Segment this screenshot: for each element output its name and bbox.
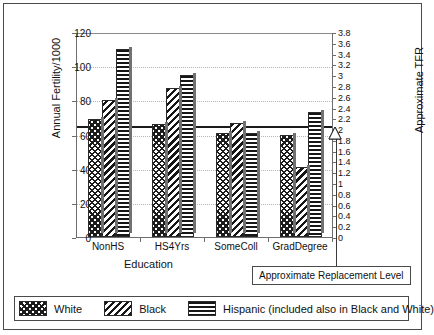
bar-shadow-top [129, 47, 132, 50]
x-axis-tick-mark [332, 238, 333, 242]
y-axis-tick-label: 80 [51, 97, 91, 107]
bar-shadow-top [101, 117, 104, 120]
secondary-y-axis-tick-mark [332, 65, 336, 66]
bar-shadow-top [307, 165, 310, 168]
secondary-y-axis-tick-label: 1 [338, 180, 343, 189]
bar-white-hs4yrs [152, 124, 166, 237]
y-axis-tick-label: 60 [51, 132, 91, 142]
bar-shadow [243, 121, 246, 233]
y-axis-tick-label: 40 [51, 166, 91, 176]
y-axis-title: Annual Fertility/1000 [50, 28, 62, 148]
y-axis-tick-mark [72, 170, 76, 171]
secondary-y-axis-tick-label: 2.4 [338, 105, 351, 114]
secondary-y-axis-tick-mark [332, 55, 336, 56]
plot-area [76, 33, 332, 238]
y-axis-tick-mark [72, 101, 76, 102]
secondary-y-axis-tick-label: 3 [338, 72, 343, 81]
bar-white-graddegree [280, 135, 294, 238]
bar-shadow [165, 122, 168, 233]
bar-hispanic-somecoll [244, 133, 258, 237]
bar-black-hs4yrs [166, 88, 180, 237]
bar-white-somecoll [216, 133, 230, 237]
secondary-y-axis-title: Approximate TFR [413, 30, 425, 150]
bar-shadow [193, 73, 196, 233]
bar-shadow-top [293, 133, 296, 136]
fertility-bar-chart: Annual Fertility/1000 Approximate TFR Ed… [4, 4, 423, 331]
secondary-y-axis-tick-label: 0 [338, 234, 343, 243]
bar-shadow-top [321, 110, 324, 113]
secondary-y-axis-tick-label: 3.6 [338, 40, 351, 49]
secondary-y-axis-tick-mark [332, 98, 336, 99]
horizontal-stripe-swatch [188, 301, 216, 316]
legend-item-1: White [19, 301, 82, 316]
bar-hispanic-graddegree [308, 112, 322, 237]
x-axis-category-label: NonHS [76, 241, 140, 252]
bar-shadow [179, 86, 182, 233]
secondary-y-axis-tick-label: 0.4 [338, 212, 351, 221]
bar-shadow-top [193, 73, 196, 76]
secondary-y-axis-tick-mark [332, 76, 336, 77]
secondary-y-axis-tick-label: 0.6 [338, 202, 351, 211]
callout-leader-line [336, 135, 337, 269]
bar-hispanic-hs4yrs [180, 75, 194, 237]
legend-item-label: Hispanic (included also in Black and Whi… [223, 303, 434, 315]
legend-item-2: Black [104, 301, 166, 316]
x-axis-title: Education [124, 258, 173, 270]
bar-shadow [257, 131, 260, 233]
secondary-y-axis-tick-label: 3.4 [338, 51, 351, 60]
legend-item-label: Black [139, 303, 166, 315]
secondary-y-axis-tick-mark [332, 44, 336, 45]
secondary-y-axis-tick-label: 1.2 [338, 169, 351, 178]
chart-frame: Annual Fertility/1000 Approximate TFR Ed… [3, 3, 422, 330]
bar-black-graddegree [294, 167, 308, 237]
bar-shadow-top [257, 131, 260, 134]
secondary-y-axis-tick-label: 1.6 [338, 148, 351, 157]
callout-arrow-icon [329, 128, 341, 139]
bar-shadow [229, 131, 232, 233]
secondary-y-axis-tick-label: 3.2 [338, 61, 351, 70]
secondary-y-axis-tick-mark [332, 119, 336, 120]
y-axis-tick-label: 20 [51, 200, 91, 210]
bar-shadow [129, 47, 132, 233]
bar-black-somecoll [230, 123, 244, 237]
legend-item-3: Hispanic (included also in Black and Whi… [188, 301, 434, 316]
secondary-y-axis-tick-mark [332, 87, 336, 88]
bar-shadow-top [179, 86, 182, 89]
bar-shadow [307, 165, 310, 233]
y-axis-tick-mark [72, 136, 76, 137]
y-axis-tick-mark [72, 204, 76, 205]
y-axis-tick-label: 120 [51, 29, 91, 39]
x-axis-category-label: HS4Yrs [140, 241, 204, 252]
bar-white-nonhs [88, 119, 102, 237]
y-axis-tick-mark [72, 238, 76, 239]
bar-shadow [115, 98, 118, 233]
x-axis-category-label: GradDegree [268, 241, 332, 252]
y-axis-tick-label: 100 [51, 63, 91, 73]
bar-shadow-top [165, 122, 168, 125]
y-axis-tick-mark [72, 33, 76, 34]
legend-item-label: White [54, 303, 82, 315]
bar-black-nonhs [102, 100, 116, 237]
x-axis-category-label: SomeColl [204, 241, 268, 252]
secondary-y-axis-tick-label: 3.8 [338, 29, 351, 38]
bar-shadow-top [229, 131, 232, 134]
bar-shadow-top [243, 121, 246, 124]
y-axis-tick-mark [72, 67, 76, 68]
secondary-y-axis-tick-label: 1.4 [338, 158, 351, 167]
gridline [77, 33, 332, 34]
replacement-level-callout: Approximate Replacement Level [252, 266, 411, 285]
cross-hatch-swatch [19, 301, 47, 316]
secondary-y-axis-tick-label: 2.2 [338, 115, 351, 124]
chart-legend: WhiteBlackHispanic (included also in Bla… [14, 296, 409, 321]
secondary-y-axis-tick-label: 2.6 [338, 94, 351, 103]
bar-hispanic-nonhs [116, 49, 130, 237]
secondary-y-axis-tick-mark [332, 33, 336, 34]
secondary-y-axis-tick-label: 2.8 [338, 83, 351, 92]
secondary-y-axis-tick-label: 0.2 [338, 223, 351, 232]
diagonal-stripe-swatch [104, 301, 132, 316]
bar-shadow [321, 110, 324, 233]
bar-shadow-top [115, 98, 118, 101]
bar-shadow [293, 133, 296, 234]
bar-shadow [101, 117, 104, 233]
secondary-y-axis-tick-label: 0.8 [338, 191, 351, 200]
